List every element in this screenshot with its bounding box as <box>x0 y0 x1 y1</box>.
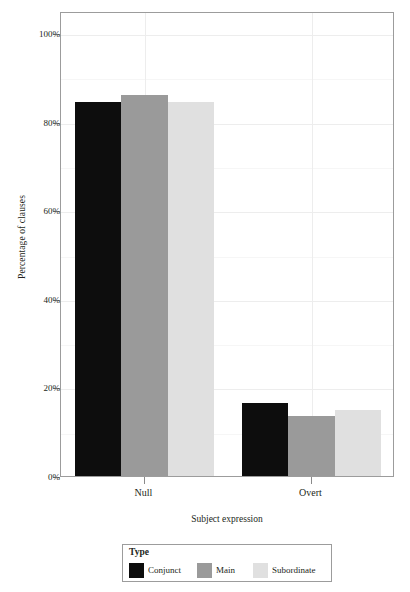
x-axis-title: Subject expression <box>60 514 394 524</box>
gridline-vertical <box>312 13 313 476</box>
x-tick-mark <box>311 477 312 484</box>
gridline-major <box>61 35 393 36</box>
bar-subordinate-null <box>168 102 215 476</box>
y-tick-label: 100% <box>14 29 60 39</box>
legend: Type ConjunctMainSubordinate <box>122 544 332 582</box>
y-tick-label: 40% <box>14 295 60 305</box>
bar-chart-figure: Percentage of clauses 0%20%40%60%80%100%… <box>0 0 410 592</box>
gridline-minor <box>61 79 393 80</box>
bar-main-overt <box>288 416 335 476</box>
y-tick-label: 0% <box>14 472 60 482</box>
y-axis-title: Percentage of clauses <box>17 157 27 317</box>
bar-conjunct-overt <box>242 403 289 476</box>
legend-swatch-conjunct <box>129 563 144 578</box>
x-tick-label-null: Null <box>89 487 199 498</box>
y-tick-label: 60% <box>14 206 60 216</box>
y-tick-label: 20% <box>14 383 60 393</box>
bar-subordinate-overt <box>335 410 382 476</box>
legend-label-main: Main <box>216 565 235 575</box>
y-tick-label: 80% <box>14 118 60 128</box>
plot-panel <box>60 12 394 477</box>
bar-main-null <box>121 95 168 476</box>
legend-swatch-subordinate <box>253 563 268 578</box>
x-tick-mark <box>144 477 145 484</box>
legend-title: Type <box>129 547 149 557</box>
bar-conjunct-null <box>75 102 122 476</box>
legend-entry-subordinate: Subordinate <box>253 561 316 579</box>
legend-entry-main: Main <box>197 561 235 579</box>
legend-swatch-main <box>197 563 212 578</box>
legend-entry-conjunct: Conjunct <box>129 561 181 579</box>
x-tick-label-overt: Overt <box>256 487 366 498</box>
legend-label-subordinate: Subordinate <box>272 565 316 575</box>
legend-label-conjunct: Conjunct <box>148 565 181 575</box>
